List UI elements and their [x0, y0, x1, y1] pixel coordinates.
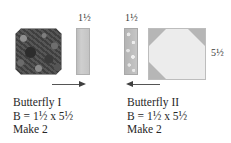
snowball-dimension-label: 5½ — [211, 48, 224, 58]
snowball-corner-bottom-left — [149, 62, 166, 79]
caption-butterfly-1-make: Make 2 — [13, 123, 73, 137]
strip-right-dimension-label: 1½ — [125, 13, 138, 23]
caption-butterfly-2: Butterfly II B = 1½ x 5½ Make 2 — [127, 96, 187, 137]
caption-butterfly-1-formula: B = 1½ x 5½ — [13, 110, 73, 124]
arrow-right-line — [52, 84, 80, 85]
arrow-left-head — [126, 81, 133, 87]
speckled-grey-strip-patch — [124, 28, 138, 75]
dark-print-octagon-patch — [15, 28, 62, 75]
plain-grey-strip-patch — [76, 28, 90, 75]
snowball-corner-top-right — [188, 29, 205, 46]
caption-butterfly-1-title: Butterfly I — [13, 96, 73, 110]
arrow-left-line — [132, 84, 160, 85]
caption-butterfly-2-make: Make 2 — [127, 123, 187, 137]
snowball-square-patch — [148, 28, 206, 80]
caption-butterfly-2-formula: B = 1½ x 5½ — [127, 110, 187, 124]
arrow-left-icon — [126, 80, 160, 89]
arrow-right-icon — [52, 80, 86, 89]
diagram-canvas: 1½ Butterfly I B = 1½ x 5½ Make 2 1½ 5½ … — [0, 0, 231, 143]
arrow-right-head — [79, 81, 86, 87]
caption-butterfly-1: Butterfly I B = 1½ x 5½ Make 2 — [13, 96, 73, 137]
snowball-corner-top-left — [149, 29, 166, 46]
strip-left-dimension-label: 1½ — [78, 13, 91, 23]
caption-butterfly-2-title: Butterfly II — [127, 96, 187, 110]
